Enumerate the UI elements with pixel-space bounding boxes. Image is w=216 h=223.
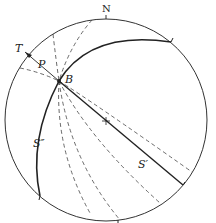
label-b: B — [64, 73, 73, 86]
point-b — [57, 79, 61, 83]
s-prime-plane — [59, 81, 183, 185]
tick-ne — [171, 38, 173, 42]
stereonet-diagram: N T P B S″ S′ — [0, 0, 216, 223]
tick-sw — [39, 196, 40, 200]
north-label: N — [102, 3, 111, 14]
label-p: P — [37, 58, 46, 71]
label-s-prime: S′ — [138, 158, 149, 171]
label-s-double-prime: S″ — [33, 137, 46, 150]
label-t: T — [15, 42, 24, 55]
